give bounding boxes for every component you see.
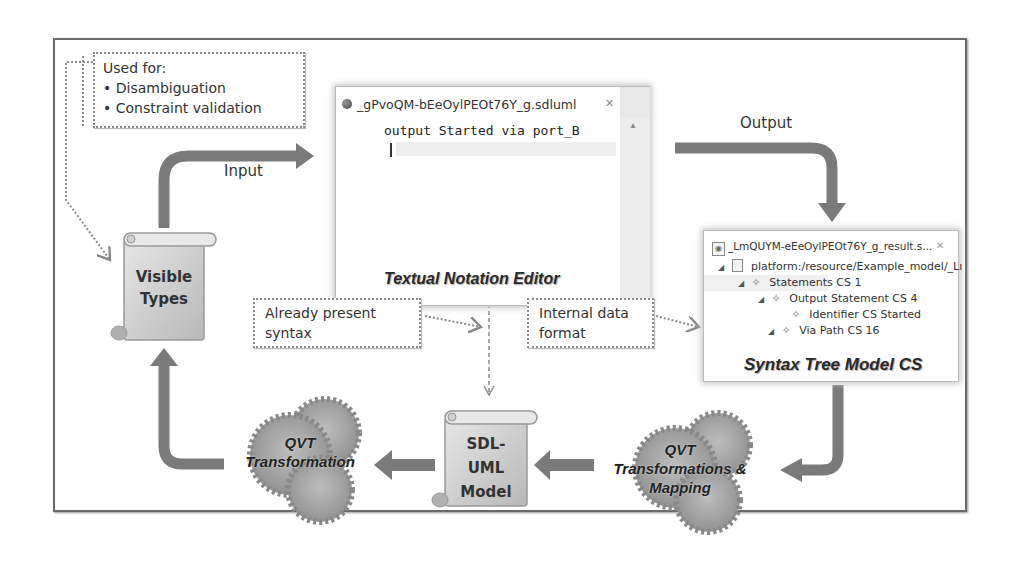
current-line-highlight: [396, 142, 616, 156]
dotted-connector-internal-data: [656, 316, 699, 327]
tree-row-label: Identifier CS Started: [809, 308, 921, 321]
output-arrow: [675, 148, 846, 222]
qvt-left-line2: Transformation: [230, 452, 370, 471]
qvt-right-line1: QVT: [600, 440, 760, 459]
diamond-icon: ✧: [752, 276, 761, 289]
syntax-tree-list: ◢ platform:/resource/Example_model/_Lı ◢…: [704, 259, 960, 339]
close-icon[interactable]: ✕: [936, 240, 944, 251]
used-for-heading: Used for:: [103, 58, 295, 78]
sdl-uml-line3: Model: [445, 480, 527, 504]
tree-row[interactable]: ◢ platform:/resource/Example_model/_Lı: [704, 259, 960, 275]
sdl-uml-line2: UML: [445, 456, 527, 480]
syntax-to-qvt-arrow: [780, 385, 838, 482]
text-cursor: [390, 143, 392, 157]
diamond-icon: ✧: [792, 308, 801, 321]
editor-tab[interactable]: _gPvoQM-bEeOylPEOt76Y_g.sdluml ✕: [340, 93, 620, 117]
used-for-note: Used for: • Disambiguation • Constraint …: [93, 52, 305, 128]
visible-types-line1: Visible: [124, 266, 204, 288]
qvt-transformation-label: QVT Transformation: [230, 433, 370, 471]
model-file-icon: ◉: [712, 242, 725, 256]
editor-caption: Textual Notation Editor: [384, 270, 559, 288]
close-icon[interactable]: ✕: [605, 97, 614, 110]
visible-types-line2: Types: [124, 288, 204, 310]
syntax-tree-window: ◉ _LmQUYM-eEeOylPEOt76Y_g_result.s... ✕ …: [703, 230, 959, 382]
expand-toggle-icon[interactable]: ◢: [718, 260, 728, 276]
already-present-syntax-note: Already present syntax: [253, 298, 421, 348]
editor-tab-bar: _gPvoQM-bEeOylPEOt76Y_g.sdluml ✕: [336, 87, 651, 117]
tab-bar-filler: [620, 87, 650, 117]
syntax-tree-tab-title[interactable]: _LmQUYM-eEeOylPEOt76Y_g_result.s...: [728, 240, 932, 252]
visible-types-label: Visible Types: [124, 266, 204, 310]
expand-toggle-icon[interactable]: ◢: [768, 324, 778, 340]
tree-row-label: Statements CS 1: [769, 276, 861, 289]
file-dot-icon: [342, 99, 352, 109]
textual-notation-editor-window: _gPvoQM-bEeOylPEOt76Y_g.sdluml ✕ ▲ outpu…: [335, 86, 650, 306]
internal-data-line2: format: [539, 323, 642, 343]
already-present-line1: Already present: [265, 303, 409, 323]
dotted-connector-already-present: [425, 316, 481, 327]
already-present-line2: syntax: [265, 323, 409, 343]
qvt-left-line1: QVT: [230, 433, 370, 452]
tree-row[interactable]: ◢ ✧ Via Path CS 16: [694, 323, 960, 339]
sdl-uml-line1: SDL-: [445, 432, 527, 456]
sdluml-to-qvt-arrow: [374, 450, 435, 480]
output-label: Output: [740, 114, 792, 132]
tree-row-label: Output Statement CS 4: [789, 292, 917, 305]
tree-row[interactable]: ◢ ✧ Output Statement CS 4: [704, 291, 960, 307]
diamond-icon: ✧: [772, 292, 781, 305]
qvt-to-sdluml-arrow: [534, 450, 594, 480]
tree-row-label: platform:/resource/Example_model/_Lı: [751, 260, 962, 273]
tree-row-label: Via Path CS 16: [799, 324, 879, 337]
file-icon: [732, 259, 743, 272]
qvt-right-line2: Transformations &: [600, 459, 760, 478]
used-for-item: • Disambiguation: [103, 78, 295, 98]
editor-vertical-scrollbar[interactable]: ▲: [620, 117, 650, 305]
internal-data-line1: Internal data: [539, 303, 642, 323]
diamond-icon: ✧: [782, 324, 791, 337]
editor-tab-title: _gPvoQM-bEeOylPEOt76Y_g.sdluml: [357, 97, 577, 112]
used-for-item: • Constraint validation: [103, 98, 295, 118]
syntax-tree-caption: Syntax Tree Model CS: [744, 355, 922, 375]
scroll-up-icon[interactable]: ▲: [629, 121, 637, 130]
tree-row[interactable]: ◢ ✧ Statements CS 1: [704, 275, 828, 291]
expand-toggle-icon[interactable]: ◢: [738, 276, 748, 292]
tree-row[interactable]: ✧ Identifier CS Started: [704, 307, 960, 323]
sdl-uml-model-label: SDL- UML Model: [445, 432, 527, 504]
input-arrow: [164, 143, 314, 228]
input-label: Input: [224, 162, 263, 180]
editor-code-line[interactable]: output Started via port_B: [384, 123, 580, 138]
qvt-transformations-mapping-label: QVT Transformations & Mapping: [600, 440, 760, 497]
qvt-to-visibletypes-arrow: [150, 348, 224, 464]
internal-data-format-note: Internal data format: [527, 298, 654, 348]
expand-toggle-icon[interactable]: ◢: [758, 292, 768, 308]
qvt-right-line3: Mapping: [600, 478, 760, 497]
